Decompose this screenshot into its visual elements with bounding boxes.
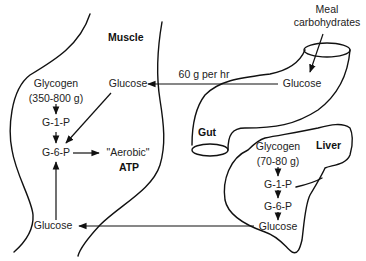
meal-label-line2: carbohydrates xyxy=(294,17,361,28)
muscle-glucose-top-label: Glucose xyxy=(109,78,148,89)
muscle-glycogen-amount: (350-800 g) xyxy=(29,93,83,104)
aerobic-label: "Aerobic" xyxy=(106,147,149,158)
gut-glucose-label: Glucose xyxy=(283,78,322,89)
meal-label-line1: Meal xyxy=(316,4,339,15)
muscle-right-boundary xyxy=(78,22,164,256)
liver-glycogen-label: Glycogen xyxy=(256,141,300,152)
muscle-glycogen-label: Glycogen xyxy=(34,78,78,89)
gut-upper-opening xyxy=(304,43,350,57)
liver-glucose-label: Glucose xyxy=(259,221,298,232)
liver-label: Liver xyxy=(316,140,341,151)
liver-g6p-label: G-6-P xyxy=(264,201,292,212)
liver-g1p-label: G-1-P xyxy=(264,179,292,190)
gut-lower-opening xyxy=(192,144,228,156)
meal-to-gut-arrow xyxy=(310,34,323,72)
gut-label: Gut xyxy=(198,127,216,138)
liver-glycogen-amount: (70-80 g) xyxy=(257,156,300,167)
muscle-g1p-label: G-1-P xyxy=(42,117,70,128)
muscle-label: Muscle xyxy=(108,32,144,43)
gut-tube-bottom-edge xyxy=(228,50,350,150)
flow-rate-label: 60 g per hr xyxy=(179,69,230,80)
muscle-left-boundary xyxy=(10,14,90,252)
muscle-glucose-bottom-label: Glucose xyxy=(34,220,73,231)
muscle-g6p-label: G-6-P xyxy=(42,147,70,158)
atp-label: ATP xyxy=(119,162,139,173)
